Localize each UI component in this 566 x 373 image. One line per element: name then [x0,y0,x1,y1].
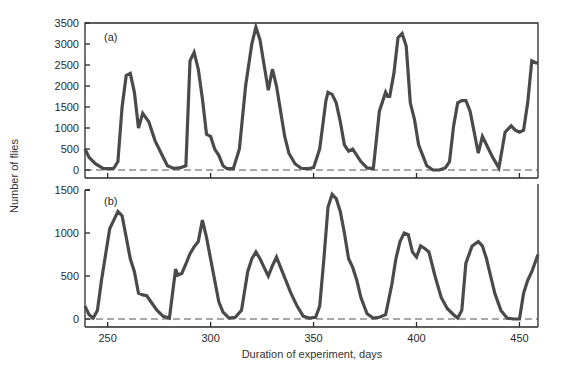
panel-b: 050010001500 250300350400450 (b) [55,184,538,344]
y-tick-label: 0 [73,164,79,176]
panel-a-x-ticks [108,173,520,178]
panel-a-data-line [85,27,538,170]
x-axis-title: Duration of experiment, days [242,348,383,360]
y-tick-label: 3000 [55,38,79,50]
y-tick-label: 1000 [55,227,79,239]
y-tick-label: 500 [61,270,79,282]
y-tick-label: 1500 [55,101,79,113]
x-tick-label: 450 [510,332,528,344]
y-tick-label: 3500 [55,17,79,29]
panel-a-label: (a) [104,31,117,43]
panel-b-label: (b) [104,195,117,207]
y-tick-label: 1500 [55,184,79,196]
y-tick-label: 500 [61,143,79,155]
panel-a-frame [85,23,538,178]
y-tick-label: 2000 [55,80,79,92]
y-tick-label: 2500 [55,59,79,71]
panel-a: 0500100015002000250030003500 (a) [55,17,538,178]
x-tick-label: 300 [201,332,219,344]
y-tick-label: 0 [73,313,79,325]
y-axis-title: Number of flies [8,139,20,213]
panel-b-x-ticks: 250300350400450 [98,322,528,344]
panel-b-data-line [85,194,538,319]
x-tick-label: 250 [98,332,116,344]
chart-figure: Number of flies 050010001500200025003000… [0,0,566,373]
x-tick-label: 350 [304,332,322,344]
x-tick-label: 400 [407,332,425,344]
y-tick-label: 1000 [55,122,79,134]
